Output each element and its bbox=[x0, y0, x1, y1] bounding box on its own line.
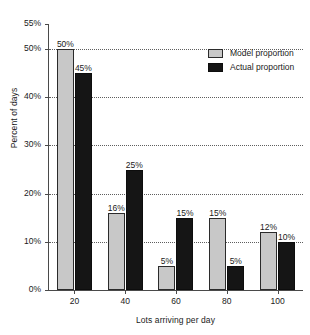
legend-swatch-model-icon bbox=[208, 49, 223, 58]
x-axis-title: Lots arriving per day bbox=[48, 315, 303, 325]
bar-actual[interactable]: 15% bbox=[176, 218, 193, 290]
bar-value-label: 25% bbox=[126, 160, 143, 170]
bar-value-label: 45% bbox=[75, 63, 92, 73]
bar-value-label: 12% bbox=[260, 222, 277, 232]
x-tick-label: 40 bbox=[100, 296, 151, 306]
legend-label-actual: Actual proportion bbox=[230, 62, 294, 72]
chart-legend: Model proportion Actual proportion bbox=[208, 48, 294, 76]
bar-chart: Percent of days Lots arriving per day 0%… bbox=[0, 0, 310, 335]
bar-group: 50%45%20 bbox=[49, 24, 100, 290]
x-tick-label: 100 bbox=[252, 296, 303, 306]
bar-value-label: 10% bbox=[278, 232, 295, 242]
y-tick-mark bbox=[45, 290, 49, 291]
bar-group: 5%15%60 bbox=[151, 24, 202, 290]
y-tick-label: 0% bbox=[1, 284, 48, 294]
x-tick-mark bbox=[176, 290, 177, 294]
y-tick-label: 40% bbox=[1, 91, 48, 101]
bar-model[interactable]: 50% bbox=[57, 49, 74, 290]
bar-actual[interactable]: 45% bbox=[75, 73, 92, 290]
x-tick-mark bbox=[227, 290, 228, 294]
bar-model[interactable]: 15% bbox=[209, 218, 226, 290]
x-tick-label: 80 bbox=[201, 296, 252, 306]
legend-item-model: Model proportion bbox=[208, 48, 294, 58]
bar-model[interactable]: 12% bbox=[260, 232, 277, 290]
x-tick-mark bbox=[278, 290, 279, 294]
y-tick-label: 55% bbox=[1, 18, 48, 28]
bar-value-label: 5% bbox=[230, 256, 242, 266]
bar-value-label: 15% bbox=[209, 208, 226, 218]
bar-value-label: 5% bbox=[161, 256, 173, 266]
x-tick-mark bbox=[74, 290, 75, 294]
x-tick-mark bbox=[125, 290, 126, 294]
bar-group: 16%25%40 bbox=[100, 24, 151, 290]
bar-value-label: 15% bbox=[176, 208, 193, 218]
legend-item-actual: Actual proportion bbox=[208, 62, 294, 72]
y-tick-label: 10% bbox=[1, 236, 48, 246]
y-tick-label: 30% bbox=[1, 139, 48, 149]
legend-swatch-actual-icon bbox=[208, 63, 223, 72]
bar-actual[interactable]: 25% bbox=[126, 170, 143, 291]
bar-value-label: 50% bbox=[57, 39, 74, 49]
bar-actual[interactable]: 10% bbox=[278, 242, 295, 290]
y-tick-label: 50% bbox=[1, 43, 48, 53]
x-tick-label: 20 bbox=[49, 296, 100, 306]
y-tick-label: 20% bbox=[1, 188, 48, 198]
legend-label-model: Model proportion bbox=[230, 48, 294, 58]
y-axis-title: Percent of days bbox=[9, 68, 19, 168]
bar-model[interactable]: 5% bbox=[158, 266, 175, 290]
bar-model[interactable]: 16% bbox=[108, 213, 125, 290]
bar-value-label: 16% bbox=[108, 203, 125, 213]
x-tick-label: 60 bbox=[151, 296, 202, 306]
bar-actual[interactable]: 5% bbox=[227, 266, 244, 290]
